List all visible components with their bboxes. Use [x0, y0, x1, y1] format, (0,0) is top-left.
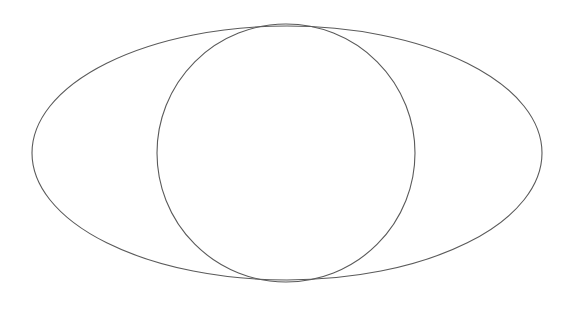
diagram-canvas: [0, 0, 581, 312]
inner-circle: [157, 24, 415, 282]
ellipse-circle-figure: [0, 0, 581, 312]
outer-ellipse: [32, 26, 542, 280]
